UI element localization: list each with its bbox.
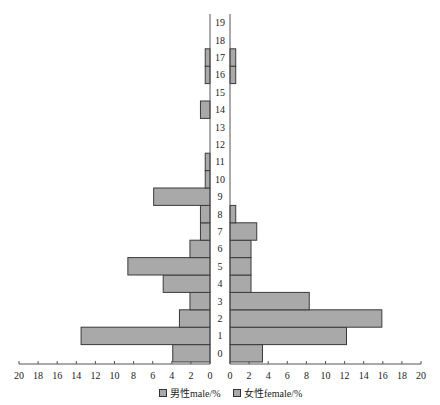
male-bar-age-2 — [179, 310, 210, 327]
age-labels: 012345678910111213141516171819 — [215, 17, 225, 359]
female-bar-age-3 — [230, 292, 309, 309]
female-bar-age-5 — [230, 258, 251, 275]
female-bar-age-4 — [230, 275, 251, 292]
age-label: 5 — [218, 261, 223, 272]
age-label: 13 — [215, 122, 225, 133]
female-bar-age-2 — [230, 310, 382, 327]
legend-male-label: 男性male/% — [170, 385, 221, 400]
age-label: 1 — [218, 330, 223, 341]
x-tick-label-left: 18 — [33, 370, 43, 381]
x-tick-label-left: 10 — [110, 370, 120, 381]
male-bar-age-0 — [173, 345, 210, 362]
male-bar-age-8 — [200, 205, 210, 222]
x-tick-label-left: 0 — [208, 370, 213, 381]
male-bar-age-4 — [163, 275, 210, 292]
x-tick-label-left: 12 — [90, 370, 100, 381]
x-tick-label-left: 20 — [14, 370, 24, 381]
male-bar-age-3 — [190, 292, 210, 309]
x-tick-label-left: 16 — [52, 370, 62, 381]
x-tick-label-right: 16 — [378, 370, 388, 381]
population-pyramid-chart: 2018161412108642002468101214161820 01234… — [0, 0, 440, 405]
male-swatch-icon — [159, 389, 167, 397]
male-bar-age-17 — [205, 49, 210, 66]
legend-female-label: 女性female/% — [244, 385, 302, 400]
x-tick-label-right: 20 — [416, 370, 426, 381]
female-bar-age-8 — [230, 205, 236, 222]
female-bar-age-6 — [230, 240, 251, 257]
male-bar-age-16 — [205, 66, 210, 83]
legend-male: 男性male/% — [159, 385, 221, 400]
x-tick-label-right: 10 — [321, 370, 331, 381]
female-bar-age-17 — [230, 49, 236, 66]
age-label: 15 — [215, 87, 225, 98]
female-bar-age-1 — [230, 327, 347, 344]
male-bar-age-9 — [154, 188, 210, 205]
age-label: 12 — [215, 139, 225, 150]
x-tick-label-right: 6 — [285, 370, 290, 381]
male-bars — [81, 49, 210, 362]
x-tick-label-left: 6 — [150, 370, 155, 381]
x-tick-label-left: 8 — [131, 370, 136, 381]
female-bar-age-16 — [230, 66, 236, 83]
male-bar-age-6 — [190, 240, 210, 257]
age-label: 9 — [218, 191, 223, 202]
x-tick-label-left: 14 — [71, 370, 81, 381]
age-label: 11 — [215, 156, 225, 167]
male-bar-age-11 — [205, 153, 210, 170]
legend-female: 女性female/% — [233, 385, 302, 400]
age-label: 10 — [215, 174, 225, 185]
age-label: 2 — [218, 313, 223, 324]
x-tick-label-right: 8 — [304, 370, 309, 381]
age-label: 14 — [215, 104, 225, 115]
x-tick-label-right: 4 — [266, 370, 271, 381]
age-label: 4 — [218, 278, 223, 289]
age-label: 17 — [215, 52, 225, 63]
age-label: 8 — [218, 209, 223, 220]
male-bar-age-7 — [200, 223, 210, 240]
x-tick-label-right: 18 — [397, 370, 407, 381]
x-tick-label-left: 2 — [188, 370, 193, 381]
age-label: 19 — [215, 17, 225, 28]
x-tick-label-left: 4 — [169, 370, 174, 381]
age-label: 0 — [218, 348, 223, 359]
age-label: 16 — [215, 69, 225, 80]
female-bars — [230, 49, 382, 362]
age-label: 7 — [218, 226, 223, 237]
age-label: 6 — [218, 243, 223, 254]
male-bar-age-14 — [200, 101, 210, 118]
female-bar-age-7 — [230, 223, 257, 240]
age-label: 3 — [218, 296, 223, 307]
x-tick-label-right: 12 — [340, 370, 350, 381]
male-bar-age-10 — [205, 171, 210, 188]
x-axis-ticks: 2018161412108642002468101214161820 — [14, 361, 426, 381]
female-bar-age-0 — [230, 345, 262, 362]
x-tick-label-right: 0 — [228, 370, 233, 381]
female-swatch-icon — [233, 389, 241, 397]
x-tick-label-right: 2 — [247, 370, 252, 381]
x-tick-label-right: 14 — [359, 370, 369, 381]
male-bar-age-5 — [128, 258, 210, 275]
male-bar-age-1 — [81, 327, 210, 344]
age-label: 18 — [215, 35, 225, 46]
